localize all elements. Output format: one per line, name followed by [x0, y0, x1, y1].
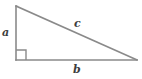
right-angle-marker-icon [16, 50, 26, 60]
hypotenuse-line [16, 6, 137, 60]
label-side-a: a [2, 27, 9, 38]
triangle-drawing [0, 0, 142, 79]
label-side-b: b [73, 64, 81, 75]
right-triangle-figure: a c b [0, 0, 142, 79]
label-side-c: c [74, 18, 81, 29]
